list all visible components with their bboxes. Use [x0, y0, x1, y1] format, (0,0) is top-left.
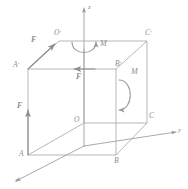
diagram-svg — [0, 0, 188, 189]
axis-x-line — [16, 146, 84, 181]
edge-top-face — [28, 41, 147, 69]
axis-y-line — [84, 132, 176, 146]
cube-edges — [28, 41, 147, 155]
force-vectors — [28, 44, 95, 155]
moment-arcs — [72, 42, 130, 110]
figure-canvas: z y x O A B C O′ A′ B′ C′ F F F M M — [0, 0, 188, 189]
force-arrow-top-diagonal — [28, 44, 55, 69]
moment-arc-right-face — [119, 80, 130, 110]
